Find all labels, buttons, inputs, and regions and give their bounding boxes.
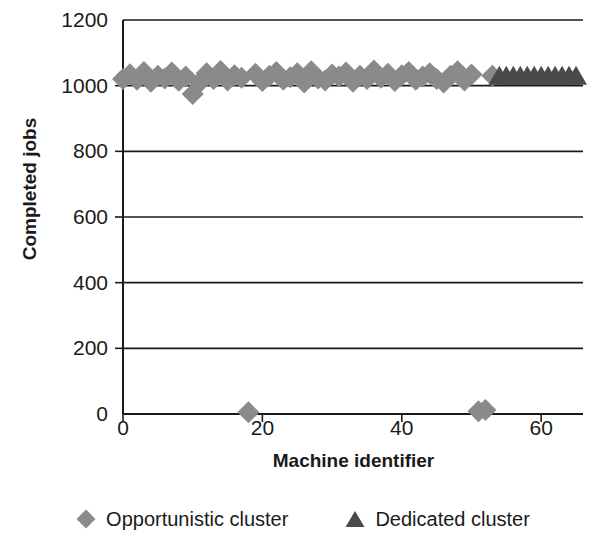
legend-item-opportunistic[interactable]: Opportunistic cluster xyxy=(75,508,288,530)
diamond-marker-icon xyxy=(75,508,97,530)
series-opportunistic xyxy=(112,60,503,424)
legend-label-opportunistic: Opportunistic cluster xyxy=(106,509,288,529)
data-point-diamond xyxy=(237,401,259,423)
series-dedicated xyxy=(488,66,587,85)
plot-area xyxy=(0,0,605,460)
triangle-marker-icon xyxy=(344,508,366,530)
chart-figure: Completed jobs 120010008006004002000 020… xyxy=(0,0,605,553)
chart-legend: Opportunistic cluster Dedicated cluster xyxy=(0,496,605,542)
legend-item-dedicated[interactable]: Dedicated cluster xyxy=(344,508,530,530)
legend-label-dedicated: Dedicated cluster xyxy=(375,509,530,529)
